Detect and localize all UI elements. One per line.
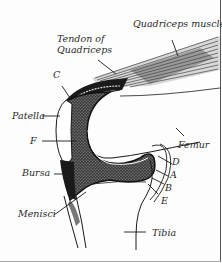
label-tibia: Tibia	[152, 228, 176, 238]
label-quadriceps-muscle: Quadriceps muscle	[133, 19, 222, 29]
patella-drawing	[56, 100, 72, 163]
knee-joint-illustration	[0, 0, 222, 263]
synovial-capsule	[64, 92, 155, 200]
label-f: F	[30, 136, 37, 146]
label-a: A	[170, 170, 177, 180]
label-b: B	[165, 183, 172, 193]
label-tendon-of-quadriceps-line2: Quadriceps	[57, 45, 112, 55]
label-menisci: Menisci	[18, 209, 56, 219]
label-c: C	[53, 70, 60, 80]
label-bursa: Bursa	[22, 168, 50, 178]
label-femur: Femur	[178, 140, 209, 150]
label-d: D	[172, 157, 180, 167]
label-tendon-of-quadriceps-line1: Tendon of	[57, 34, 105, 44]
label-e: E	[161, 196, 168, 206]
label-patella: Patella	[12, 111, 45, 121]
